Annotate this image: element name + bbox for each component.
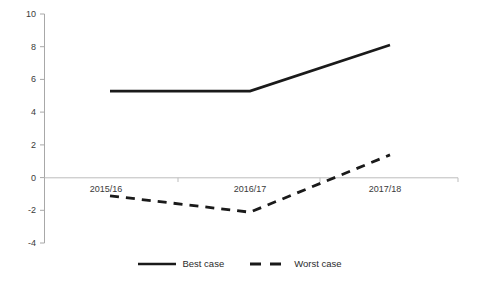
y-tick-label-2: 2 xyxy=(14,140,36,150)
y-tick-label-minus-4: -4 xyxy=(14,238,36,248)
y-tick-label-0: 0 xyxy=(14,173,36,183)
legend-item-best-case: Best case xyxy=(138,258,224,269)
x-tick-label-2016-17: 2016/17 xyxy=(215,184,285,194)
legend-swatch-solid-icon xyxy=(138,259,176,269)
series-line-best-case xyxy=(110,45,390,91)
x-axis-ticks xyxy=(178,178,458,182)
chart-legend: Best case Worst case xyxy=(0,258,480,269)
y-axis-ticks xyxy=(40,14,45,243)
x-tick-label-2015-16: 2015/16 xyxy=(71,184,141,194)
y-tick-label-4: 4 xyxy=(14,107,36,117)
legend-label-best-case: Best case xyxy=(182,258,224,269)
line-chart-plot xyxy=(0,0,480,286)
y-tick-label-10: 10 xyxy=(14,9,36,19)
y-tick-label-8: 8 xyxy=(14,42,36,52)
chart-container: 10 8 6 4 2 0 -2 -4 2015/16 2016/17 2017/… xyxy=(0,0,480,286)
y-tick-label-minus-2: -2 xyxy=(14,205,36,215)
y-tick-label-6: 6 xyxy=(14,74,36,84)
x-tick-label-2017-18: 2017/18 xyxy=(350,184,420,194)
legend-item-worst-case: Worst case xyxy=(250,258,341,269)
legend-label-worst-case: Worst case xyxy=(294,258,341,269)
legend-swatch-dashed-icon xyxy=(250,259,288,269)
